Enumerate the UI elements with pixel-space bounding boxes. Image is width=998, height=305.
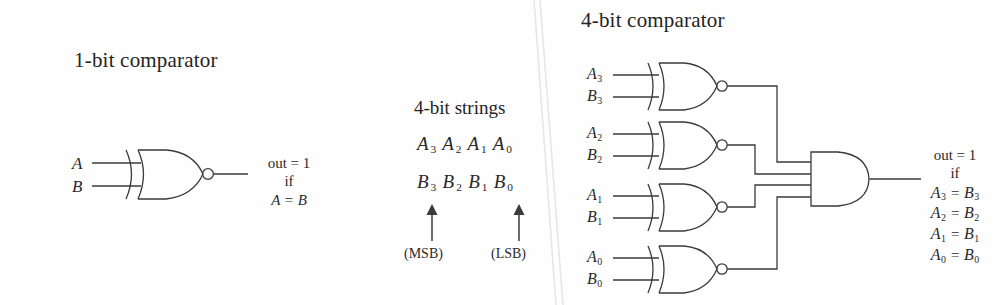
four-bit-output-text: out = 1 if A3 = B3 A2 = B2 A1 = B1 A0 = … (912, 146, 998, 266)
bit-b2: B2 (443, 171, 462, 192)
interconnect-wires (727, 86, 811, 269)
bit-string-row-a: A3 A2 A1 A0 (417, 134, 512, 156)
input-label-a1: A1 (587, 187, 602, 205)
input-label-b2: B2 (587, 147, 602, 165)
bit-b3: B3 (417, 171, 436, 192)
wire-bit1-to-and (727, 185, 811, 207)
input-label-a0: A0 (587, 249, 602, 267)
input-label-a: A (72, 155, 82, 172)
bit-a3: A3 (417, 133, 436, 154)
inversion-bubble-bit1 (717, 202, 727, 212)
eq-a0-b0: A0 = B0 (912, 245, 998, 266)
xor-outer-arc (126, 150, 132, 199)
eq-a1-b1: A1 = B1 (912, 224, 998, 245)
bit-a0: A0 (493, 133, 512, 154)
lsb-annotation: (LSB) (491, 247, 526, 261)
msb-arrow (427, 204, 438, 241)
if-line-4bit: if (912, 164, 998, 182)
xnor-gate-1bit (92, 150, 248, 199)
and-gate-4input (811, 152, 921, 206)
if-line: if (241, 172, 337, 190)
scan-fold-artifact (534, 0, 563, 305)
xnor-gate-bit3 (613, 63, 727, 110)
xnor-gate-bit1 (613, 184, 727, 231)
bit-b1: B1 (468, 171, 487, 192)
msb-annotation: (MSB) (404, 247, 443, 261)
out-eq-1-line-4bit: out = 1 (912, 146, 998, 164)
input-label-b1: B1 (587, 209, 602, 227)
eq-a3-b3: A3 = B3 (912, 183, 998, 204)
four-bit-strings-heading: 4-bit strings (414, 98, 505, 117)
input-label-b3: B3 (587, 88, 602, 106)
bit-a2: A2 (442, 133, 461, 154)
wire-bit3-to-and (727, 86, 811, 162)
inversion-bubble (203, 169, 214, 180)
input-label-b0: B0 (587, 271, 602, 289)
input-label-a2: A2 (587, 125, 602, 143)
a-eq-b-line: A = B (241, 191, 337, 209)
one-bit-comparator-title: 1-bit comparator (74, 50, 218, 71)
inversion-bubble-bit0 (717, 264, 727, 274)
input-label-a3: A3 (587, 66, 602, 84)
wire-bit2-to-and (727, 145, 811, 174)
eq-a2-b2: A2 = B2 (912, 203, 998, 224)
inversion-bubble-bit2 (717, 140, 727, 150)
one-bit-output-text: out = 1 if A = B (241, 154, 337, 209)
out-eq-1-line: out = 1 (241, 154, 337, 172)
lsb-arrow (514, 204, 525, 241)
xnor-gate-bit2 (613, 122, 727, 169)
inversion-bubble-bit3 (717, 81, 727, 91)
four-bit-comparator-title: 4-bit comparator (581, 10, 725, 31)
wire-bit0-to-and (727, 197, 811, 269)
input-label-b: B (72, 178, 82, 195)
bit-a1: A1 (467, 133, 486, 154)
bit-string-row-b: B3 B2 B1 B0 (417, 172, 513, 194)
bit-b0: B0 (494, 171, 513, 192)
xnor-gate-bit0 (613, 246, 727, 293)
comparator-figure: 1-bit comparator A B out = 1 if A = B 4-… (0, 0, 998, 305)
